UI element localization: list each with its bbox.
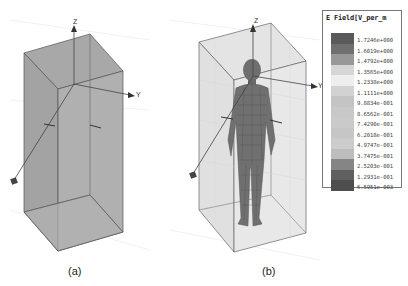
legend-swatch xyxy=(331,117,354,128)
legend-value: 9.8834e-001 xyxy=(357,98,393,109)
legend-swatch xyxy=(331,96,354,107)
legend-swatch xyxy=(331,75,354,86)
z-axis-label: Z xyxy=(254,17,259,24)
legend-swatch xyxy=(331,54,354,65)
legend-value: 1.6019e+000 xyxy=(357,46,393,57)
legend-swatch xyxy=(331,107,354,118)
legend-value: 1.1111e+000 xyxy=(357,88,393,99)
legend-value: 4.9747e-001 xyxy=(357,140,393,151)
legend-value: 2.5203e-001 xyxy=(357,161,393,172)
legend-value: 1.2338e+000 xyxy=(357,77,393,88)
legend-swatch xyxy=(331,44,354,55)
x-axis-arrow-icon xyxy=(10,177,18,185)
legend-swatch xyxy=(331,159,354,170)
legend-swatch xyxy=(331,170,354,181)
legend-color-bar xyxy=(331,33,354,191)
x-axis-arrow-icon xyxy=(189,171,197,179)
legend-value: 7.4290e-001 xyxy=(357,119,393,130)
legend-value: 3.7475e-001 xyxy=(357,151,393,162)
legend-value: 6.5951e-003 xyxy=(357,182,393,193)
legend-value: 6.2018e-001 xyxy=(357,130,393,141)
caption-a: (a) xyxy=(68,265,81,277)
legend-value: 1.7246e+000 xyxy=(357,35,393,46)
legend-value: 1.2931e-001 xyxy=(357,172,393,183)
legend-title: E Field[V_per_m xyxy=(326,14,386,22)
y-axis-arrow-icon xyxy=(311,83,318,89)
panel-a-box xyxy=(24,34,123,251)
legend-value: 8.6562e-001 xyxy=(357,109,393,120)
legend-value: 1.3565e+000 xyxy=(357,67,393,78)
y-axis-arrow-icon xyxy=(128,92,135,98)
legend-swatch xyxy=(331,65,354,76)
legend-swatch xyxy=(331,128,354,139)
legend-swatch xyxy=(331,180,354,191)
legend-swatch xyxy=(331,138,354,149)
z-axis-label: Z xyxy=(73,18,78,25)
color-legend: E Field[V_per_m 1.7246e+0001.6019e+0001.… xyxy=(322,10,402,188)
z-axis-arrow-icon xyxy=(71,25,77,32)
caption-b: (b) xyxy=(262,265,275,277)
legend-value: 1.4792e+000 xyxy=(357,56,393,67)
legend-value-labels: 1.7246e+0001.6019e+0001.4792e+0001.3565e… xyxy=(357,35,393,193)
y-axis-label: Y xyxy=(136,91,141,98)
legend-swatch xyxy=(331,33,354,44)
legend-swatch xyxy=(331,149,354,160)
legend-swatch xyxy=(331,86,354,97)
